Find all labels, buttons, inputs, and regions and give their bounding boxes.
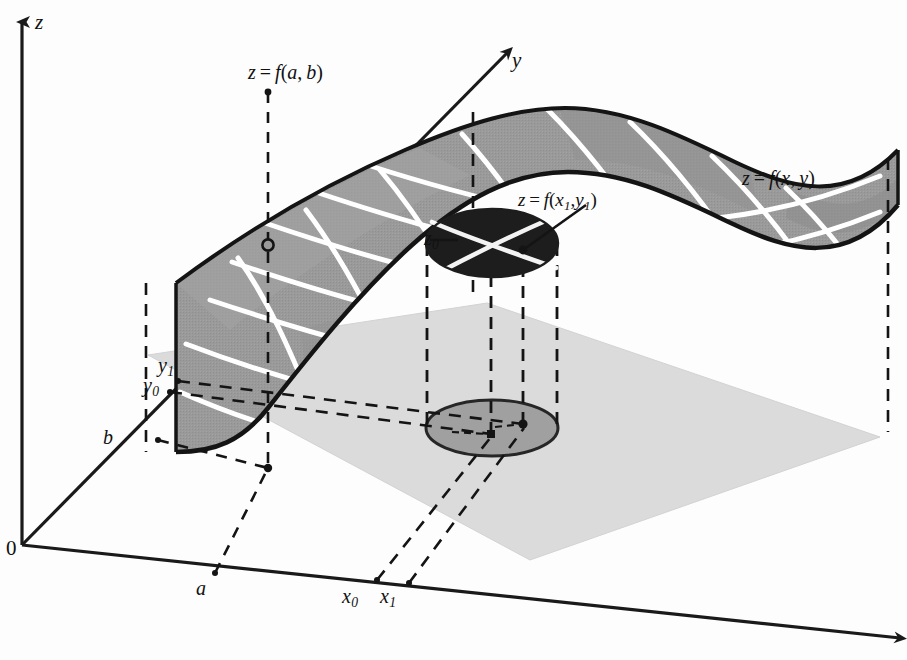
label-y0: y0 (143, 375, 159, 398)
diagram-svg (0, 0, 907, 660)
a-axis-tick (212, 570, 218, 576)
figure-canvas: z y 0 z = f(a, b) z = f(x, y) z = f(x1,y… (0, 0, 907, 660)
x0-axis-tick (374, 577, 380, 583)
label-y1: y1 (158, 355, 174, 378)
label-b: b (103, 427, 113, 447)
b-axis-tick (155, 437, 161, 443)
label-surface-equation: z = f(x, y) (742, 168, 815, 188)
ab-surface-point (262, 239, 273, 250)
a-to-base-dashed (215, 468, 268, 573)
label-point-x1y1: z = f(x1,y1) (518, 190, 597, 213)
label-point-ab: z = f(a, b) (248, 62, 323, 82)
ab-label-anchor (265, 89, 272, 96)
label-z0: z0 (424, 228, 439, 251)
surface-disk (426, 209, 558, 277)
label-origin: 0 (6, 538, 17, 559)
label-y-axis: y (512, 50, 521, 71)
y0-axis-tick (167, 389, 173, 395)
label-a: a (196, 578, 206, 598)
label-x0: x0 (342, 586, 358, 609)
x-axis (22, 545, 900, 638)
x1-axis-tick (406, 580, 412, 586)
y1-axis-tick (175, 378, 181, 384)
label-x1: x1 (380, 586, 396, 609)
label-z-axis: z (35, 12, 43, 33)
